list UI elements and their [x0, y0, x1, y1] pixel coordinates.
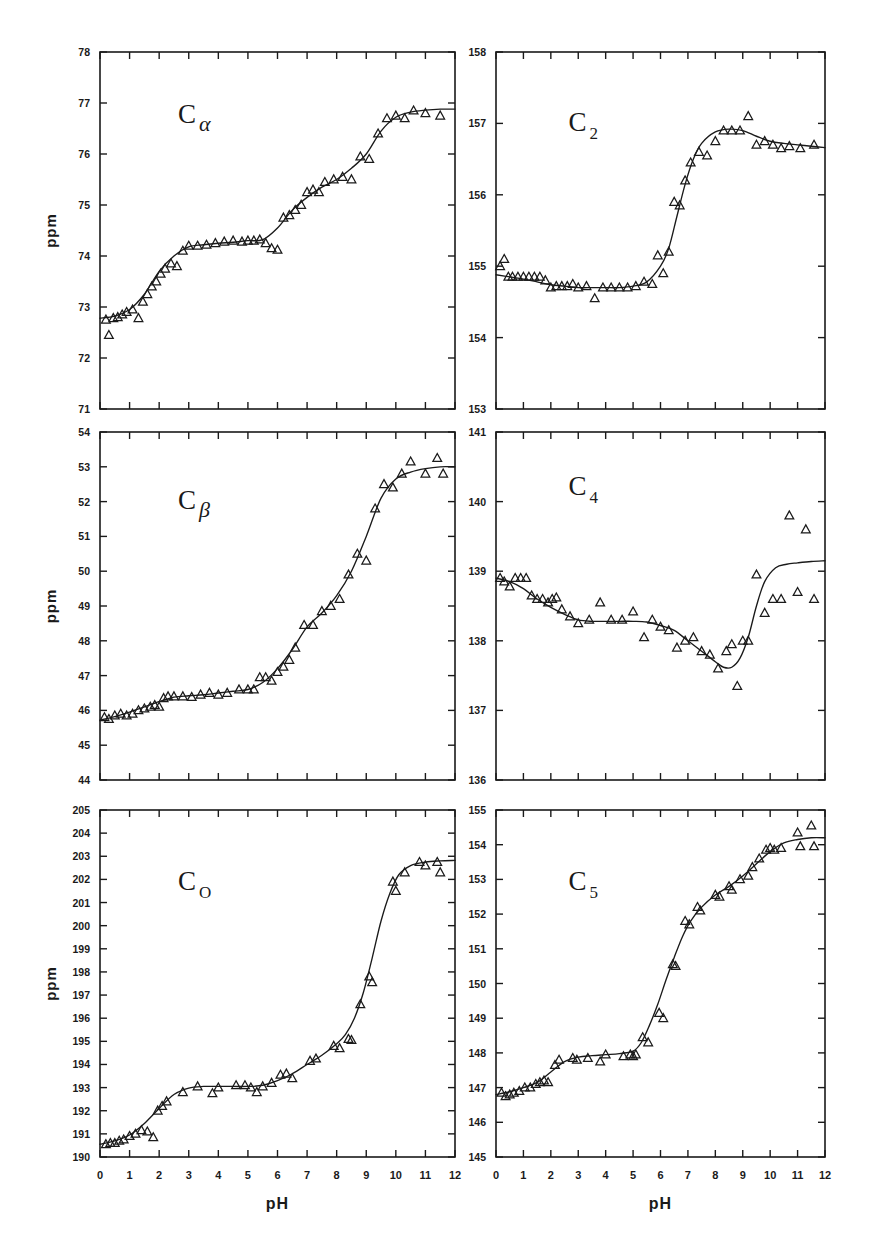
data-point [282, 1069, 291, 1077]
data-point [184, 241, 193, 249]
data-point [711, 137, 720, 145]
data-point [744, 871, 753, 879]
x-tick-label: 6 [657, 1169, 663, 1181]
data-point [618, 615, 627, 623]
data-point [214, 690, 223, 698]
y-tick-label: 47 [78, 670, 90, 682]
data-point [733, 681, 742, 689]
y-tick-label: 147 [468, 1082, 486, 1094]
data-point [810, 842, 819, 850]
panel-label-main: C [568, 866, 586, 896]
data-point [500, 254, 509, 262]
y-tick-label: 204 [72, 827, 90, 839]
y-tick-label: 191 [72, 1128, 90, 1140]
data-point [232, 1081, 241, 1089]
x-tick-label: 12 [819, 1169, 831, 1181]
plot-frame [496, 810, 825, 1157]
data-point [497, 1088, 506, 1096]
data-markers [497, 821, 818, 1100]
x-tick-label: 8 [334, 1169, 340, 1181]
y-tick-label: 192 [72, 1105, 90, 1117]
y-tick-label: 75 [78, 199, 90, 211]
panel-label-subscript: 2 [589, 124, 598, 143]
x-tick-label: 2 [156, 1169, 162, 1181]
y-tick-label: 149 [468, 1012, 486, 1024]
data-point [659, 269, 668, 277]
y-tick-label: 154 [468, 332, 486, 344]
x-tick-label: 3 [186, 1169, 192, 1181]
y-tick-label: 190 [72, 1151, 90, 1163]
fit-curve [496, 838, 825, 1095]
x-tick-label: 10 [390, 1169, 402, 1181]
x-tick-label: 9 [740, 1169, 746, 1181]
x-tick-label: 0 [97, 1169, 103, 1181]
data-point [681, 636, 690, 644]
data-point [409, 106, 418, 114]
data-point [777, 144, 786, 152]
x-tick-label: 7 [304, 1169, 310, 1181]
chart-panel-c-alpha: 7172737475767778Cαppm [42, 38, 469, 423]
data-point [193, 1082, 202, 1090]
y-tick-label: 155 [468, 260, 486, 272]
nmr-titration-figure: 7172737475767778Cαppm153154155156157158C… [0, 0, 879, 1249]
y-tick-label: 74 [78, 250, 90, 262]
y-tick-label: 76 [78, 148, 90, 160]
data-point [173, 262, 182, 270]
y-tick-label: 158 [468, 46, 486, 58]
chart-panel-c-5: 0123456789101112145146147148149150151152… [438, 796, 839, 1219]
y-tick-label: 137 [468, 704, 486, 716]
y-tick-label: 193 [72, 1082, 90, 1094]
y-tick-label: 157 [468, 117, 486, 129]
data-point [406, 457, 415, 465]
data-point [681, 916, 690, 924]
plot-frame [100, 810, 455, 1157]
y-tick-label: 78 [78, 46, 90, 58]
data-markers [496, 511, 819, 689]
y-tick-label: 49 [78, 600, 90, 612]
y-tick-label: 152 [468, 908, 486, 920]
x-tick-label: 4 [603, 1169, 610, 1181]
data-point [291, 643, 300, 651]
y-axis-title: ppm [42, 213, 59, 248]
data-point [801, 525, 810, 533]
panel-label: C4 [568, 471, 598, 507]
fit-curve [100, 467, 455, 720]
data-point [415, 857, 424, 865]
data-point [362, 556, 371, 564]
data-point [235, 685, 244, 693]
panel-label-subscript: 5 [589, 883, 598, 902]
data-point [810, 594, 819, 602]
y-tick-label: 205 [72, 804, 90, 816]
panel-label: Cβ [178, 485, 210, 522]
fit-curve [496, 129, 825, 288]
y-tick-label: 140 [468, 496, 486, 508]
chart-panel-c-4: 136137138139140141C4 [438, 418, 839, 794]
panel-label-subscript: α [199, 111, 211, 136]
y-axis-title: ppm [42, 966, 59, 1001]
data-point [777, 594, 786, 602]
data-point [105, 330, 114, 338]
y-tick-label: 154 [468, 839, 486, 851]
plot-frame [100, 432, 455, 780]
data-point [320, 177, 329, 185]
data-point [147, 282, 156, 290]
data-point [607, 615, 616, 623]
data-point [356, 152, 365, 160]
x-tick-label: 5 [630, 1169, 636, 1181]
fit-curve [496, 561, 825, 668]
data-point [777, 844, 786, 852]
x-tick-label: 0 [493, 1169, 499, 1181]
data-point [205, 688, 214, 696]
x-tick-label: 4 [215, 1169, 222, 1181]
panel-label-subscript: β [198, 497, 210, 522]
data-point [368, 978, 377, 986]
chart-panel-c-o: 0123456789101112190191192193194195196197… [42, 796, 469, 1219]
y-tick-label: 155 [468, 804, 486, 816]
panel-label-subscript: O [199, 883, 211, 902]
y-tick-label: 202 [72, 873, 90, 885]
data-markers [102, 857, 445, 1147]
data-point [585, 615, 594, 623]
x-tick-label: 11 [792, 1169, 804, 1181]
data-markers [496, 112, 819, 302]
data-point [629, 607, 638, 615]
